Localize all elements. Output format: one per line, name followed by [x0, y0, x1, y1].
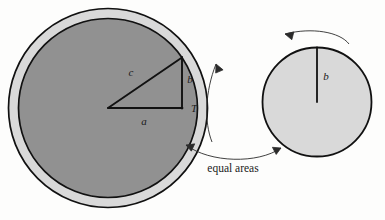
spin-arrow-left — [284, 31, 349, 44]
rotation-arrow-up — [207, 63, 224, 142]
label-a: a — [141, 115, 147, 127]
equal-areas-label: equal areas — [207, 162, 259, 175]
label-T: T — [191, 102, 198, 114]
label-c: c — [129, 66, 134, 78]
annulus-equal-areas-diagram: c b a T b equal areas — [0, 0, 385, 220]
label-b-left: b — [187, 73, 193, 85]
right-circle-group — [263, 48, 372, 157]
label-b-right: b — [323, 70, 329, 82]
